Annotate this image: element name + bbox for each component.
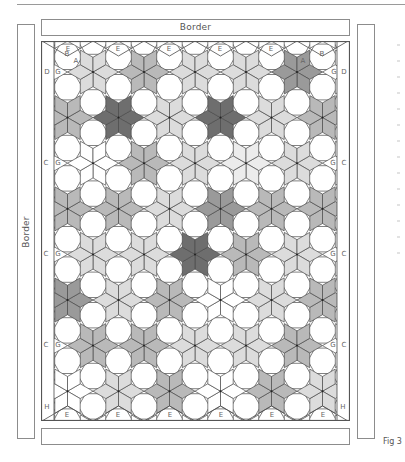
- star-center-point: [169, 390, 171, 392]
- piece-label: B: [320, 50, 325, 58]
- piece-label-top: E: [218, 45, 222, 53]
- piece-label-corner: H: [340, 403, 345, 411]
- piece-label-side: C: [44, 159, 49, 167]
- piece-label: A: [74, 57, 79, 65]
- star-center-point: [169, 208, 171, 210]
- hexagon-star-tessellation: EEEEEEEEEEEBADGABGDCGGCCGGCCGGCHH: [41, 41, 350, 421]
- piece-label-corner: H: [44, 403, 49, 411]
- border-bottom-strip: [41, 428, 350, 445]
- piece-label-side: C: [342, 341, 347, 349]
- piece-label-side: C: [44, 341, 49, 349]
- star-center-point: [220, 117, 222, 119]
- star-center-point: [169, 299, 171, 301]
- border-top-strip: Border: [41, 19, 350, 36]
- top-rule: [17, 4, 405, 5]
- border-left-strip: Border: [17, 24, 35, 439]
- right-setting-strip: [337, 41, 350, 421]
- border-top-label: Border: [42, 22, 349, 32]
- star-center-point: [194, 253, 196, 255]
- star-center-point: [67, 299, 69, 301]
- star-center-point: [143, 253, 145, 255]
- figure-label: Fig 3: [383, 437, 402, 446]
- piece-label-side: G: [55, 250, 60, 258]
- star-center-point: [296, 71, 298, 73]
- piece-label-side: G: [330, 250, 335, 258]
- star-center-point: [245, 71, 247, 73]
- star-center-point: [322, 117, 324, 119]
- star-center-point: [245, 253, 247, 255]
- piece-label-side: C: [342, 159, 347, 167]
- border-right-strip: [357, 24, 375, 439]
- piece-label-bottom: E: [116, 411, 120, 419]
- piece-label-side: G: [330, 159, 335, 167]
- piece-label-side: G: [55, 159, 60, 167]
- star-center-point: [322, 390, 324, 392]
- star-center-point: [296, 345, 298, 347]
- star-center-point: [296, 162, 298, 164]
- piece-label: A: [301, 57, 306, 65]
- star-center-point: [118, 299, 120, 301]
- star-center-point: [271, 390, 273, 392]
- star-center-point: [92, 162, 94, 164]
- piece-label-top: E: [269, 45, 273, 53]
- star-center-point: [194, 162, 196, 164]
- star-center-point: [92, 71, 94, 73]
- piece-label: G: [55, 68, 60, 76]
- star-center-point: [220, 390, 222, 392]
- star-center-point: [194, 71, 196, 73]
- star-center-point: [194, 345, 196, 347]
- star-center-point: [67, 390, 69, 392]
- star-center-point: [245, 162, 247, 164]
- piece-label-side: C: [342, 250, 347, 258]
- piece-label-side: G: [330, 341, 335, 349]
- piece-label-side: G: [55, 341, 60, 349]
- star-center-point: [271, 117, 273, 119]
- star-center-point: [220, 208, 222, 210]
- piece-label-top: E: [167, 45, 171, 53]
- star-center-point: [322, 208, 324, 210]
- star-center-point: [322, 299, 324, 301]
- star-center-point: [118, 208, 120, 210]
- star-center-point: [271, 299, 273, 301]
- star-center-point: [67, 208, 69, 210]
- border-left-label: Border: [21, 216, 31, 247]
- star-center-point: [118, 390, 120, 392]
- piece-label-bottom: E: [270, 411, 274, 419]
- piece-label-bottom: E: [65, 411, 69, 419]
- star-center-point: [92, 253, 94, 255]
- star-center-point: [143, 71, 145, 73]
- piece-label: B: [65, 50, 70, 58]
- star-center-point: [296, 253, 298, 255]
- star-center-point: [143, 345, 145, 347]
- star-center-point: [245, 345, 247, 347]
- star-center-point: [92, 345, 94, 347]
- left-setting-strip: [41, 41, 54, 421]
- piece-label: D: [341, 68, 346, 76]
- bleed-through-text: [393, 44, 403, 274]
- star-center-point: [220, 299, 222, 301]
- star-center-point: [143, 162, 145, 164]
- piece-label-side: C: [44, 250, 49, 258]
- quilt-center-diagram: EEEEEEEEEEEBADGABGDCGGCCGGCCGGCHH: [41, 41, 350, 421]
- piece-label-bottom: E: [219, 411, 223, 419]
- star-center-point: [169, 117, 171, 119]
- piece-label-bottom: E: [168, 411, 172, 419]
- piece-label: D: [44, 68, 49, 76]
- piece-label: G: [331, 68, 336, 76]
- star-center-point: [118, 117, 120, 119]
- piece-label-top: E: [116, 45, 120, 53]
- star-center-point: [67, 117, 69, 119]
- star-center-point: [271, 208, 273, 210]
- piece-label-bottom: E: [321, 411, 325, 419]
